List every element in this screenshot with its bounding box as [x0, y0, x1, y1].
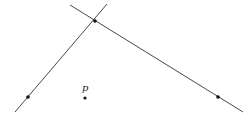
line-1-point: [26, 95, 30, 99]
intersection-point: [93, 19, 97, 23]
point-p: [83, 96, 86, 99]
diagram-canvas: p: [0, 0, 251, 120]
line-2-point: [216, 95, 220, 99]
label-p: p: [82, 82, 89, 93]
